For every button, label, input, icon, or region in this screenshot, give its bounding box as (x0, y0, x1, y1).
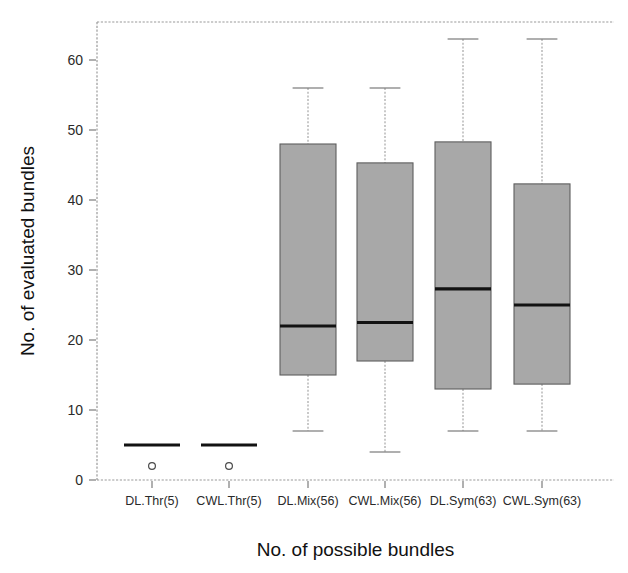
y-tick-label-0: 0 (75, 472, 83, 488)
box-DL.Sym(63) (435, 142, 491, 389)
box-DL.Mix(56) (280, 144, 336, 375)
box-group-CWL.Sym(63) (514, 39, 570, 431)
x-tick-label-CWL.Thr(5): CWL.Thr(5) (196, 494, 261, 508)
box-group-CWL.Thr(5) (201, 445, 257, 469)
y-tick-label-40: 40 (67, 192, 83, 208)
y-tick-label-10: 10 (67, 402, 83, 418)
x-tick-label-DL.Mix(56): DL.Mix(56) (277, 494, 338, 508)
box-group-DL.Sym(63) (435, 39, 491, 431)
x-tick-label-CWL.Sym(63): CWL.Sym(63) (503, 494, 581, 508)
x-tick-label-CWL.Mix(56): CWL.Mix(56) (349, 494, 422, 508)
outlier-DL.Thr(5)-0 (149, 463, 156, 470)
outlier-CWL.Thr(5)-0 (226, 463, 233, 470)
box-group-DL.Thr(5) (124, 445, 180, 469)
y-axis-title: No. of evaluated bundles (17, 146, 38, 356)
box-CWL.Mix(56) (357, 163, 413, 361)
box-group-CWL.Mix(56) (357, 88, 413, 452)
x-axis-title: No. of possible bundles (257, 539, 455, 560)
y-tick-label-60: 60 (67, 52, 83, 68)
boxplot-canvas: 0102030405060DL.Thr(5)CWL.Thr(5)DL.Mix(5… (0, 0, 628, 573)
x-tick-label-DL.Sym(63): DL.Sym(63) (430, 494, 497, 508)
box-CWL.Sym(63) (514, 184, 570, 384)
y-tick-label-50: 50 (67, 122, 83, 138)
y-tick-label-20: 20 (67, 332, 83, 348)
boxplot-figure: 0102030405060DL.Thr(5)CWL.Thr(5)DL.Mix(5… (0, 0, 628, 573)
y-tick-label-30: 30 (67, 262, 83, 278)
box-group-DL.Mix(56) (280, 88, 336, 431)
x-tick-label-DL.Thr(5): DL.Thr(5) (125, 494, 178, 508)
box-series (124, 39, 570, 469)
